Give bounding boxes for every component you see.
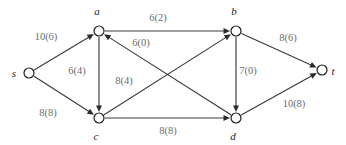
edge-label-a-b: 6(2)	[149, 12, 167, 24]
node-label-a: a	[94, 5, 100, 17]
edge-label-s-a: 10(6)	[35, 31, 58, 43]
edge-label-c-b: 8(4)	[115, 75, 133, 87]
edge-label-s-c: 8(8)	[39, 107, 57, 119]
edge-label-b-t: 8(6)	[279, 32, 297, 44]
arrowhead-c-d	[224, 115, 231, 121]
edge-label-d-t: 10(8)	[283, 98, 306, 110]
node-label-t: t	[331, 65, 335, 77]
edge-label-b-d: 7(0)	[239, 65, 257, 77]
arrowhead-d-a	[104, 34, 111, 40]
edge-label-c-d: 8(8)	[159, 125, 177, 137]
arrowhead-s-c	[87, 109, 94, 115]
arrowhead-c-b	[224, 34, 231, 40]
edge-label-a-c: 6(4)	[68, 65, 86, 77]
arrowhead-a-b	[224, 28, 231, 34]
node-c	[94, 113, 104, 123]
node-a	[94, 26, 104, 36]
node-b	[231, 26, 241, 36]
node-s	[24, 68, 34, 78]
edge-b-t	[241, 33, 313, 66]
edge-label-d-a: 6(0)	[132, 37, 150, 49]
arrowhead-a-c	[96, 106, 102, 113]
node-labels-layer: sabcdt	[12, 5, 336, 142]
flow-network-svg: 10(6)8(8)6(2)6(4)6(0)8(4)7(0)8(8)8(6)10(…	[0, 0, 346, 145]
arrowhead-s-a	[87, 34, 94, 40]
node-d	[231, 113, 241, 123]
flow-network-figure: 10(6)8(8)6(2)6(4)6(0)8(4)7(0)8(8)8(6)10(…	[0, 0, 346, 145]
node-label-c: c	[94, 130, 99, 142]
node-label-b: b	[231, 5, 237, 17]
node-label-d: d	[230, 130, 236, 142]
edge-d-t	[241, 75, 313, 115]
arrowhead-b-d	[233, 106, 239, 113]
node-label-s: s	[12, 67, 16, 79]
node-t	[317, 65, 327, 75]
